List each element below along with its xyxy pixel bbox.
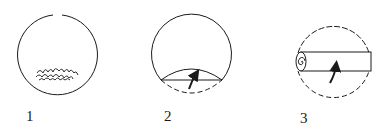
filling-scribble: [36, 69, 78, 80]
step-3-label: 3: [300, 111, 308, 126]
step-2-label: 2: [164, 109, 172, 124]
step-2-figure: [152, 14, 232, 93]
diagram-canvas: [0, 0, 391, 135]
fold-arrow-icon: [189, 74, 196, 89]
crepe-outline-top: [298, 26, 369, 53]
step-1-label: 1: [26, 109, 34, 124]
crepe-outline: [18, 15, 98, 95]
step-1-figure: [18, 15, 98, 95]
crepe-outline: [152, 14, 232, 80]
folded-flap-edge: [161, 69, 222, 80]
step-3-figure: [296, 26, 371, 97]
